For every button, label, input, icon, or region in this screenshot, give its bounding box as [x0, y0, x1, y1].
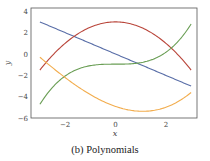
x-tick-label: 2	[164, 121, 168, 129]
y-axis-ticks: 420−2−4−6	[18, 8, 29, 123]
series-cubic-2	[40, 57, 191, 111]
x-axis-label: x	[113, 129, 118, 138]
y-tick-label: 4	[24, 8, 29, 16]
series-linear	[40, 22, 191, 86]
plot-curves	[40, 22, 191, 111]
x-tick-label: −2	[60, 121, 70, 129]
y-tick-label: −6	[18, 115, 29, 123]
y-tick-label: 0	[24, 51, 28, 59]
y-tick-label: −4	[18, 93, 29, 101]
x-tick-label: 0	[113, 121, 117, 129]
series-quadratic	[40, 22, 191, 70]
y-tick-label: −2	[18, 72, 28, 80]
series-cubic	[40, 24, 191, 104]
x-axis-ticks: −202	[60, 121, 168, 129]
polynomials-chart: −202 420−2−4−6 x y	[0, 0, 210, 161]
figure-caption: (b) Polynomials	[0, 144, 210, 155]
y-axis-label: y	[3, 60, 12, 66]
y-tick-label: 2	[24, 29, 28, 37]
plot-frame	[31, 8, 197, 118]
